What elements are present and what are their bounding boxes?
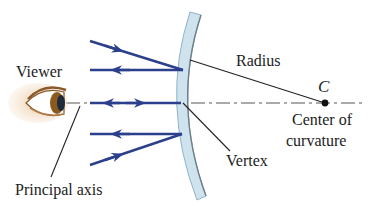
- center-of-curvature-point: [322, 100, 329, 107]
- incident-ray-top-arrow: [105, 46, 118, 50]
- center-symbol-label: C: [318, 77, 330, 96]
- incident-ray-bottom: [90, 134, 182, 165]
- viewer-eye-icon: [8, 83, 68, 123]
- center-of-curvature-label-line2: curvature: [286, 132, 346, 149]
- radius-label: Radius: [236, 52, 280, 69]
- concave-mirror-diagram: Viewer Radius C Center of curvature Vert…: [0, 0, 374, 214]
- center-of-curvature-label-line1: Center of: [292, 111, 353, 128]
- rays: [90, 41, 183, 165]
- viewer-label: Viewer: [16, 63, 63, 80]
- incident-ray-bottom-arrow: [105, 156, 118, 160]
- incident-ray-top: [90, 41, 183, 70]
- principal-axis-label: Principal axis: [15, 181, 103, 199]
- concave-mirror: [177, 12, 206, 200]
- vertex-label: Vertex: [226, 152, 268, 169]
